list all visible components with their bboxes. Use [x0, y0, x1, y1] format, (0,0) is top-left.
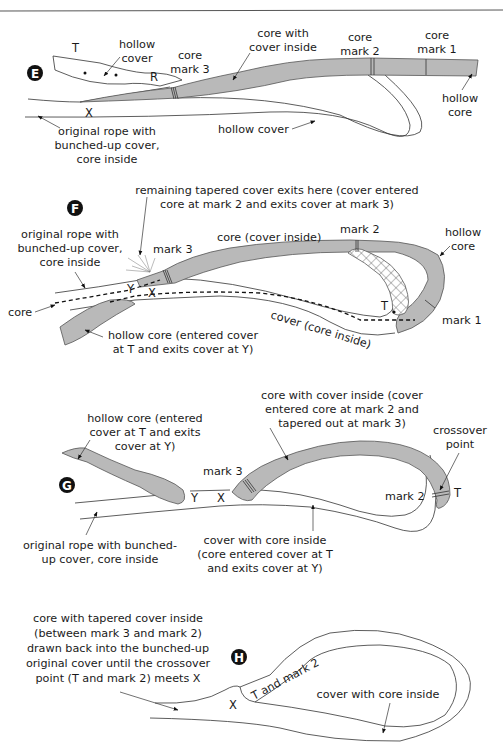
svg-text:cover with core inside: cover with core inside — [317, 688, 440, 701]
svg-text:core with cover inside (cover: core with cover inside (cover — [261, 389, 423, 402]
svg-text:T: T — [71, 41, 80, 55]
svg-text:entered core at mark 2 and: entered core at mark 2 and — [265, 403, 419, 416]
hollow-core-g — [62, 448, 185, 504]
svg-text:drawn back into the bunched-up: drawn back into the bunched-up — [27, 642, 209, 655]
badge-e: E — [27, 65, 43, 81]
svg-text:T: T — [380, 299, 389, 313]
crosshatched-cover-f — [348, 249, 409, 315]
svg-text:and exits cover at Y): and exits cover at Y) — [207, 562, 322, 575]
badge-g: G — [59, 477, 75, 493]
svg-text:bunched-up cover,: bunched-up cover, — [18, 242, 123, 255]
svg-text:H: H — [234, 651, 244, 665]
svg-text:bunched-up cover,: bunched-up cover, — [55, 139, 160, 152]
svg-text:core: core — [451, 240, 475, 253]
panel-f: F Y X T remaining tapered — [8, 184, 482, 356]
svg-text:E: E — [31, 67, 39, 81]
svg-text:mark 3: mark 3 — [153, 243, 193, 256]
svg-text:cover: cover — [121, 52, 152, 65]
svg-text:remaining tapered cover exits: remaining tapered cover exits here (cove… — [135, 184, 418, 197]
panel-h: H X T and mark 2 core with tapered cover… — [26, 612, 471, 741]
svg-text:hollow: hollow — [442, 92, 478, 105]
svg-text:hollow core (entered cover: hollow core (entered cover — [108, 329, 258, 342]
svg-text:mark 2: mark 2 — [385, 490, 425, 503]
svg-text:(core entered cover at T: (core entered cover at T — [197, 548, 333, 561]
svg-text:original rope with bunched-: original rope with bunched- — [23, 539, 177, 552]
svg-text:core: core — [178, 49, 202, 62]
svg-text:core inside: core inside — [77, 153, 138, 166]
svg-text:X: X — [85, 106, 93, 120]
svg-text:cover at Y): cover at Y) — [115, 440, 176, 453]
rope-splice-diagram: E T R X hollow cover core mark 3 core wi… — [0, 0, 503, 743]
svg-text:mark 1: mark 1 — [417, 43, 457, 56]
svg-text:mark 3: mark 3 — [203, 465, 243, 478]
svg-text:hollow cover: hollow cover — [218, 123, 289, 136]
svg-text:cover inside: cover inside — [249, 41, 317, 54]
svg-text:core with tapered cover inside: core with tapered cover inside — [33, 612, 203, 625]
svg-text:original rope with: original rope with — [21, 228, 119, 241]
svg-text:(between mark 3 and mark 2): (between mark 3 and mark 2) — [34, 627, 202, 640]
svg-text:cover (core inside): cover (core inside) — [269, 308, 373, 351]
svg-text:Y: Y — [126, 282, 135, 296]
svg-text:core: core — [348, 31, 372, 44]
svg-text:cover with core inside: cover with core inside — [204, 534, 327, 547]
svg-text:cover at T and exits: cover at T and exits — [89, 426, 200, 439]
svg-text:mark 1: mark 1 — [442, 314, 482, 327]
badge-f: F — [67, 200, 83, 216]
panel-e: E T R X hollow cover core mark 3 core wi… — [25, 27, 478, 166]
svg-text:original cover until the cross: original cover until the crossover — [26, 657, 211, 670]
svg-text:point: point — [446, 438, 475, 451]
svg-text:core inside: core inside — [40, 256, 101, 269]
svg-text:F: F — [71, 202, 79, 216]
svg-text:R: R — [150, 70, 158, 84]
svg-text:hollow: hollow — [445, 226, 481, 239]
svg-text:mark 2: mark 2 — [340, 223, 380, 236]
svg-text:point (T and mark 2) meets X: point (T and mark 2) meets X — [36, 672, 201, 685]
svg-text:Y: Y — [190, 491, 199, 505]
svg-text:core: core — [448, 106, 472, 119]
svg-text:core (cover inside): core (cover inside) — [217, 231, 321, 244]
svg-text:original rope with: original rope with — [58, 125, 156, 138]
panel-g: G Y X T hollow core (entered cover at T … — [23, 389, 487, 575]
badge-h: H — [231, 649, 247, 665]
svg-text:core: core — [8, 306, 32, 319]
svg-text:X: X — [229, 698, 237, 712]
svg-text:tapered out at mark 3): tapered out at mark 3) — [278, 417, 406, 430]
svg-text:hollow core (entered: hollow core (entered — [87, 412, 202, 425]
svg-text:X: X — [217, 491, 225, 505]
svg-text:X: X — [148, 286, 156, 300]
svg-text:T: T — [453, 486, 462, 500]
svg-text:core with: core with — [257, 27, 309, 40]
svg-text:up cover, core inside: up cover, core inside — [42, 553, 159, 566]
svg-text:crossover: crossover — [433, 424, 487, 437]
svg-text:core at mark 2 and exits cover: core at mark 2 and exits cover at mark 3… — [160, 198, 394, 211]
svg-text:at T and exits cover at Y): at T and exits cover at Y) — [113, 343, 254, 356]
svg-text:mark 3: mark 3 — [170, 63, 210, 76]
svg-text:mark 2: mark 2 — [340, 45, 380, 58]
svg-text:hollow: hollow — [119, 38, 155, 51]
svg-text:G: G — [62, 479, 72, 493]
header-rule — [0, 10, 503, 11]
svg-text:core: core — [425, 29, 449, 42]
